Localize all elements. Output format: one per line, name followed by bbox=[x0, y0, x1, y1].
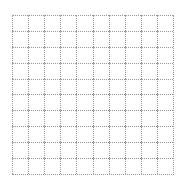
grid-cell bbox=[44, 94, 60, 110]
grid-cell bbox=[93, 142, 109, 158]
grid-cell bbox=[141, 94, 157, 110]
grid-cell bbox=[12, 15, 28, 31]
grid-cell bbox=[125, 142, 141, 158]
grid-cell bbox=[157, 79, 173, 95]
grid-cell bbox=[76, 158, 92, 174]
grid-cell bbox=[109, 110, 125, 126]
grid-cell bbox=[60, 126, 76, 142]
grid-cell bbox=[12, 47, 28, 63]
grid-cell bbox=[141, 126, 157, 142]
grid-cell bbox=[60, 15, 76, 31]
grid-cell bbox=[12, 94, 28, 110]
grid-cell bbox=[28, 79, 44, 95]
grid-cell bbox=[141, 47, 157, 63]
grid-cell bbox=[28, 31, 44, 47]
grid-cell bbox=[76, 15, 92, 31]
grid-cell bbox=[109, 79, 125, 95]
grid-cell bbox=[109, 15, 125, 31]
grid-cell bbox=[60, 31, 76, 47]
grid-cell bbox=[157, 31, 173, 47]
grid-cell bbox=[125, 94, 141, 110]
grid-cell bbox=[12, 126, 28, 142]
grid-cell bbox=[93, 63, 109, 79]
grid-cell bbox=[157, 142, 173, 158]
grid-cell bbox=[93, 94, 109, 110]
grid-cell bbox=[109, 158, 125, 174]
grid-cell bbox=[12, 63, 28, 79]
grid-cell bbox=[60, 63, 76, 79]
grid-cell bbox=[157, 110, 173, 126]
grid-cell bbox=[141, 142, 157, 158]
grid-cell bbox=[76, 142, 92, 158]
grid-cell bbox=[60, 47, 76, 63]
grid-cell bbox=[141, 31, 157, 47]
grid-cell bbox=[109, 126, 125, 142]
grid-cell bbox=[12, 79, 28, 95]
grid-cell bbox=[93, 158, 109, 174]
grid-cell bbox=[125, 79, 141, 95]
grid-cell bbox=[44, 79, 60, 95]
grid-cell bbox=[157, 126, 173, 142]
grid-cell bbox=[157, 15, 173, 31]
grid-cell bbox=[125, 63, 141, 79]
grid-cell bbox=[28, 142, 44, 158]
grid-cell bbox=[76, 94, 92, 110]
grid-cell bbox=[141, 79, 157, 95]
grid-cell bbox=[93, 47, 109, 63]
grid-cell bbox=[28, 47, 44, 63]
grid-cell bbox=[93, 31, 109, 47]
grid-cell bbox=[76, 110, 92, 126]
grid-cell bbox=[28, 94, 44, 110]
grid-cell bbox=[60, 110, 76, 126]
grid-cell bbox=[157, 47, 173, 63]
grid-cell bbox=[109, 47, 125, 63]
grid-cell bbox=[76, 126, 92, 142]
grid-cell bbox=[60, 142, 76, 158]
grid-cell bbox=[125, 110, 141, 126]
grid-cell bbox=[12, 110, 28, 126]
grid-cell bbox=[157, 63, 173, 79]
grid-cell bbox=[76, 79, 92, 95]
grid-cell bbox=[76, 63, 92, 79]
grid-cell bbox=[125, 15, 141, 31]
grid-cell bbox=[109, 63, 125, 79]
grid-cell bbox=[44, 47, 60, 63]
grid-cell bbox=[44, 126, 60, 142]
grid-cell bbox=[44, 110, 60, 126]
grid-cell bbox=[93, 126, 109, 142]
grid-cell bbox=[60, 158, 76, 174]
grid-cell bbox=[44, 63, 60, 79]
grid-cell bbox=[109, 31, 125, 47]
grid-cell bbox=[12, 31, 28, 47]
grid-cell bbox=[12, 158, 28, 174]
grid-cell bbox=[125, 47, 141, 63]
grid-cell bbox=[157, 158, 173, 174]
grid-cell bbox=[93, 79, 109, 95]
grid-cell bbox=[60, 94, 76, 110]
grid-cell bbox=[28, 63, 44, 79]
grid-cell bbox=[76, 47, 92, 63]
grid-cell bbox=[28, 15, 44, 31]
grid-cell bbox=[44, 158, 60, 174]
grid-cell bbox=[141, 63, 157, 79]
grid-cell bbox=[28, 158, 44, 174]
grid-cell bbox=[28, 110, 44, 126]
grid-cell bbox=[125, 126, 141, 142]
grid-cell bbox=[76, 31, 92, 47]
grid-cell bbox=[93, 15, 109, 31]
grid-cell bbox=[125, 31, 141, 47]
grid-cell bbox=[109, 94, 125, 110]
grid-cell bbox=[141, 110, 157, 126]
grid-cell bbox=[141, 158, 157, 174]
grid-cell bbox=[109, 142, 125, 158]
grid-cell bbox=[125, 158, 141, 174]
grid-cell bbox=[60, 79, 76, 95]
grid-cell bbox=[12, 142, 28, 158]
dotted-grid bbox=[12, 15, 174, 175]
grid-cell bbox=[93, 110, 109, 126]
canvas bbox=[0, 0, 187, 181]
grid-cell bbox=[157, 94, 173, 110]
grid-cell bbox=[44, 31, 60, 47]
grid-cell bbox=[44, 15, 60, 31]
grid-cell bbox=[28, 126, 44, 142]
